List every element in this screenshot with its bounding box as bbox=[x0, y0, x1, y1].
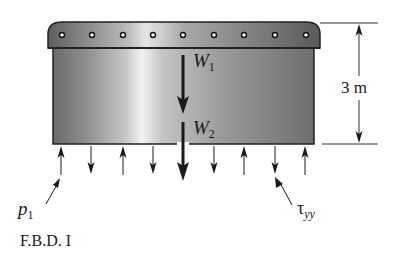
rivet-icon bbox=[121, 33, 126, 38]
rivet-icon bbox=[60, 33, 65, 38]
w2-label: W2 bbox=[193, 117, 215, 139]
rivet-icon bbox=[304, 33, 309, 38]
tau-yy-label: τyy bbox=[297, 198, 315, 219]
tau-leader-icon bbox=[275, 177, 292, 205]
rivet-icon bbox=[212, 33, 217, 38]
rivet-icon bbox=[242, 33, 247, 38]
rivet-icon bbox=[151, 33, 156, 38]
arrow-up-icon bbox=[58, 146, 65, 175]
arrow-down-icon bbox=[211, 146, 218, 174]
arrow-up-icon bbox=[241, 146, 248, 175]
p1-label: p1 bbox=[18, 198, 34, 220]
arrow-up-icon bbox=[302, 146, 309, 175]
w1-label: W1 bbox=[193, 50, 215, 72]
rivet-icon bbox=[273, 33, 278, 38]
p1-leader-icon bbox=[46, 178, 60, 204]
arrow-down-icon bbox=[150, 146, 157, 174]
arrow-down-icon bbox=[88, 146, 95, 174]
arrow-up-icon bbox=[120, 146, 127, 175]
figure-caption: F.B.D. I bbox=[20, 232, 71, 250]
rivet-icon bbox=[90, 33, 95, 38]
height-dimension-label: 3 m bbox=[341, 76, 367, 100]
arrow-down-icon bbox=[272, 146, 279, 174]
rivet-icon bbox=[181, 33, 186, 38]
